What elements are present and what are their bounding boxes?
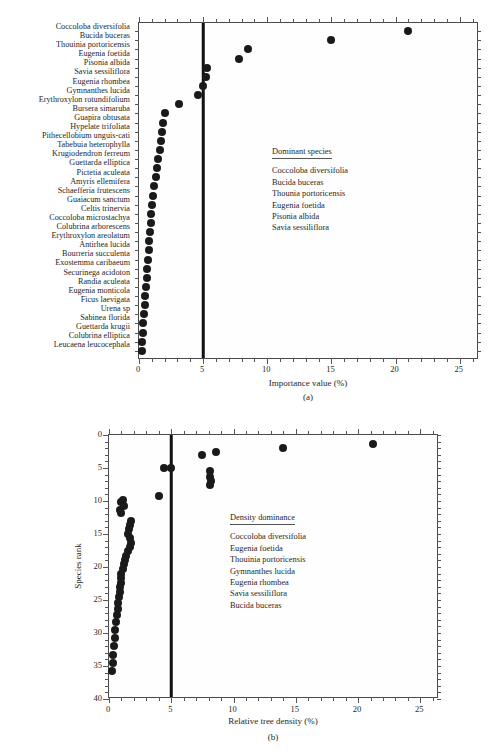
x-minor-tick-top [408,19,409,23]
y-minor-tick-b-right [437,640,441,641]
y-species-tick-right [477,287,481,288]
y-species-tick-right [477,104,481,105]
x-minor-tick-b [271,697,272,701]
data-point-b [369,440,377,448]
y-species-tick-right [477,186,481,187]
x-major-tick-top [331,17,332,23]
y-species-tick [135,241,139,242]
y-species-tick [135,196,139,197]
y-minor-tick-b-right [437,613,441,614]
y-tick-label-b: 40 [86,693,102,703]
data-point-b [117,509,125,517]
data-point [139,329,147,337]
species-label: Coccoloba diversifolia [0,22,134,31]
x-minor-tick-b-top [134,431,135,435]
species-label: Eugenia rhombea [0,77,134,86]
legend-title-a: Dominant species [272,146,332,159]
y-minor-tick-b [105,547,109,548]
y-species-tick [135,31,139,32]
x-minor-tick [254,358,255,362]
species-label: Bourreria succulenta [0,249,134,258]
x-minor-tick-b-top [383,431,384,435]
x-minor-tick-top [357,19,358,23]
y-minor-tick-b [105,587,109,588]
x-minor-tick [447,358,448,362]
species-label: Leucaena leucocephala [0,340,134,349]
y-species-tick [135,223,139,224]
y-species-tick-right [477,159,481,160]
y-minor-tick-b-right [437,442,441,443]
species-label: Colubrina elliptica [0,331,134,340]
species-label: Schaefferia frutescens [0,186,134,195]
y-species-tick [135,150,139,151]
y-minor-tick-b-right [437,686,441,687]
y-species-tick-right [477,269,481,270]
x-minor-tick-b [121,697,122,701]
y-species-tick [135,305,139,306]
x-minor-tick-b [221,697,222,701]
y-major-tick-b [103,567,109,568]
x-major-tick-b-top [358,429,359,435]
species-label: Exostemma caribaeum [0,258,134,267]
species-label: Guettarda elliptica [0,158,134,167]
y-species-tick-right [477,232,481,233]
x-minor-tick [434,358,435,362]
data-point [138,338,146,346]
data-point [203,64,211,72]
species-label: Pisonia albida [0,58,134,67]
panel-b-relative-tree-density: Species rank Relative tree density (%) (… [0,408,498,754]
x-minor-tick-b [246,697,247,701]
y-major-tick-b [103,435,109,436]
y-minor-tick-b [105,461,109,462]
x-minor-tick-b-top [333,431,334,435]
x-minor-tick [242,358,243,362]
x-major-tick-b-top [109,429,110,435]
y-species-tick-right [477,351,481,352]
legend-items-b: Coccoloba diversifoliaEugenia foetidaTho… [230,531,306,611]
x-major-tick-b [234,697,235,703]
x-minor-tick-b-top [121,431,122,435]
species-label: Amyris ellemifera [0,177,134,186]
y-species-tick-right [477,223,481,224]
y-species-tick-right [477,278,481,279]
y-major-tick-b [103,501,109,502]
x-minor-tick-b [134,697,135,701]
y-minor-tick-b-right [437,455,441,456]
x-minor-tick-top [293,19,294,23]
y-species-tick-right [477,250,481,251]
x-minor-tick [357,358,358,362]
y-minor-tick-b [105,692,109,693]
x-tick-label: 20 [390,364,399,374]
y-species-tick [135,323,139,324]
x-minor-tick-b-top [209,431,210,435]
y-species-tick [135,250,139,251]
y-species-tick [135,168,139,169]
y-minor-tick-b-right [437,587,441,588]
y-minor-tick-b [105,607,109,608]
y-minor-tick-b-right [437,574,441,575]
x-minor-tick-b [321,697,322,701]
x-minor-tick-b-top [246,431,247,435]
x-tick-label-b: 0 [106,704,110,714]
y-species-tick-right [477,95,481,96]
x-minor-tick-b-top [146,431,147,435]
data-point [139,319,147,327]
x-minor-tick-b [346,697,347,701]
y-species-tick [135,177,139,178]
x-tick-label: 0 [136,364,140,374]
x-tick-label: 10 [262,364,271,374]
y-minor-tick-b [105,521,109,522]
y-minor-tick-b [105,620,109,621]
legend-item: Eugenia foetida [230,543,306,554]
x-major-tick-b [420,697,421,703]
x-tick-label-b: 10 [228,704,237,714]
y-species-tick [135,132,139,133]
x-minor-tick-b-top [184,431,185,435]
x-minor-tick-b [283,697,284,701]
x-minor-tick-b-top [258,431,259,435]
y-minor-tick-b-right [437,699,441,700]
x-minor-tick-top [434,19,435,23]
y-minor-tick-b-right [437,534,441,535]
data-point [145,237,153,245]
legend-item: Eugenia foetida [272,200,348,211]
